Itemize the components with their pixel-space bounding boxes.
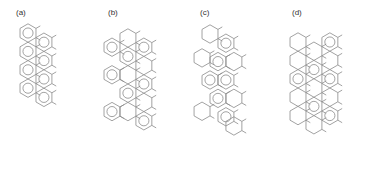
aromatic-circle [39,74,49,84]
hexagon-ring [136,112,152,130]
hexagon-ring [306,60,322,78]
panel-c: (c) [186,0,278,181]
aromatic-circle [205,75,215,85]
hexagon-ring [322,33,338,51]
aromatic-circle [23,65,33,75]
edge-bond [52,102,56,105]
aromatic-circle [23,46,33,56]
hexagon-ring [322,88,338,106]
edge-bond [218,27,222,30]
edge-bond [338,65,342,68]
edge-bond [234,85,238,88]
aromatic-circle [309,65,319,75]
edge-bond [152,107,156,110]
edge-bond [226,91,230,94]
edge-bond [136,104,140,107]
aromatic-circle [325,74,335,84]
hexagon-ring [322,106,338,124]
edge-bond [322,99,326,102]
edge-bond [52,35,56,38]
hexagon-ring [218,71,234,89]
hexagon-ring [20,24,36,42]
edge-bond [306,35,310,38]
hexagon-ring [322,51,338,69]
edge-bond [52,53,56,56]
aromatic-circle [325,37,335,47]
aromatic-circle [139,79,149,89]
hexagon-ring [120,47,136,65]
hexagon-ring [104,102,120,120]
aromatic-circle [123,88,133,98]
edge-bond [52,72,56,75]
hexagon-ring [202,25,218,43]
hexagon-ring [120,84,136,102]
edge-bond [36,26,40,29]
aromatic-circle [325,111,335,121]
aromatic-circle [139,116,149,126]
edge-bond [306,47,310,50]
aromatic-circle [123,51,133,61]
edge-bond [152,89,156,92]
edge-bond [52,84,56,87]
aromatic-circle [213,93,223,103]
edge-bond [306,83,310,86]
hexagon-ring [36,70,52,88]
panel-a: (a) [6,0,98,181]
edge-bond [338,108,342,111]
aromatic-circle [23,83,33,93]
edge-bond [120,40,124,43]
edge-bond [242,131,246,134]
edge-bond [242,54,246,57]
hexagon-ring [136,38,152,56]
edge-bond [136,31,140,34]
hexagon-ring [36,51,52,69]
aromatic-circle [107,107,117,117]
molecule-b [96,0,188,181]
edge-bond [242,91,246,94]
hexagon-ring [306,97,322,115]
hexagon-ring [306,79,322,97]
aromatic-circle [139,42,149,52]
edge-bond [210,51,214,54]
molecule-a [6,0,98,181]
panel-b: (b) [96,0,188,181]
hexagon-ring [202,71,218,89]
hexagon-ring [104,38,120,56]
aromatic-circle [221,75,231,85]
edge-bond [152,114,156,117]
edge-bond [152,95,156,98]
edge-bond [136,98,140,101]
aromatic-circle [39,56,49,66]
aromatic-circle [221,112,231,122]
hexagon-ring [120,29,136,47]
edge-bond [338,72,342,75]
hexagon-ring [194,102,210,120]
aromatic-circle [107,42,117,52]
molecule-d [276,0,368,181]
hexagon-ring [290,88,306,106]
aromatic-circle [23,28,33,38]
hexagon-ring [136,56,152,74]
edge-bond [306,120,310,123]
edge-bond [338,120,342,123]
edge-bond [210,116,214,119]
edge-bond [234,36,238,39]
edge-bond [152,77,156,80]
aromatic-circle [39,92,49,102]
hexagon-ring [104,66,120,84]
edge-bond [234,48,238,51]
edge-bond [242,66,246,69]
edge-bond [242,119,246,122]
edge-bond [234,110,238,113]
edge-bond [152,125,156,128]
hexagon-ring [290,70,306,88]
hexagon-ring [20,61,36,79]
hexagon-ring [136,93,152,111]
edge-bond [338,35,342,38]
edge-bond [234,73,238,76]
hexagon-ring [210,52,226,70]
edge-bond [322,62,326,64]
edge-bond [152,58,156,61]
edge-bond [322,56,326,59]
edge-bond [306,90,310,93]
